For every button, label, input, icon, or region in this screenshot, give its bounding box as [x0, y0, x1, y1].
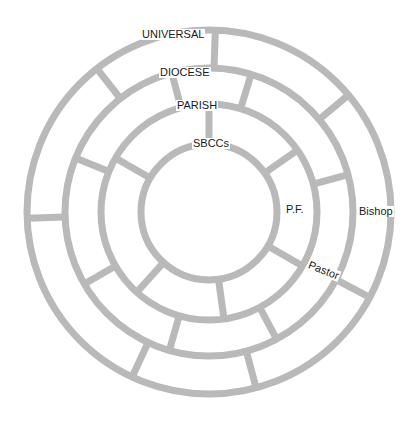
spoke-universal-diocese [97, 69, 120, 99]
spoke-parish-sbccs [268, 246, 303, 266]
spoke-universal-diocese [214, 30, 215, 68]
label-parish: PARISH [176, 100, 218, 111]
label-bishop: Bishop [358, 206, 394, 217]
spoke-diocese-parish [241, 74, 252, 108]
spoke-diocese-parish [75, 158, 108, 171]
spoke-universal-diocese [319, 95, 348, 119]
spoke-parish-sbccs [265, 150, 298, 173]
spoke-universal-diocese [246, 351, 256, 388]
spoke-universal-diocese [27, 217, 65, 218]
spoke-diocese-parish [260, 307, 277, 339]
ring-universal [27, 30, 391, 394]
spoke-diocese-parish [313, 175, 348, 184]
ring-sbccs [141, 144, 277, 280]
label-pf: P.F. [285, 204, 305, 215]
spoke-parish-sbccs [137, 263, 164, 293]
label-universal: UNIVERSAL [141, 29, 205, 40]
label-sbccs: SBCCs [192, 138, 230, 149]
spoke-universal-diocese [132, 343, 148, 377]
spoke-diocese-parish [84, 266, 115, 284]
concentric-rings-diagram [0, 0, 418, 424]
spoke-parish-sbccs [218, 279, 224, 319]
spoke-diocese-parish [169, 316, 179, 351]
spoke-parish-sbccs [115, 158, 150, 178]
spoke-universal-diocese [336, 280, 370, 298]
label-diocese: DIOCESE [159, 67, 211, 78]
